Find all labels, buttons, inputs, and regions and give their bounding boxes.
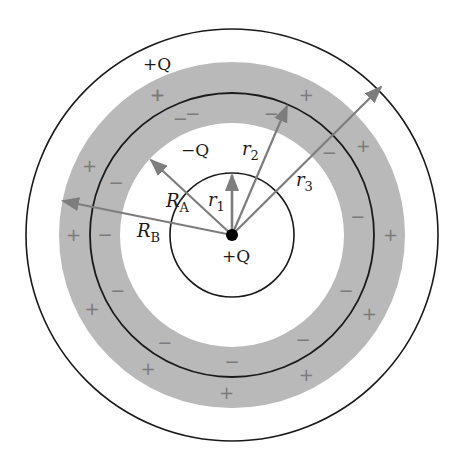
label-r2: r2 — [242, 138, 259, 163]
plus-sign: + — [362, 303, 377, 324]
minus-sign: − — [295, 329, 310, 350]
minus-sign: − — [224, 351, 239, 372]
label-r3: r3 — [296, 169, 313, 194]
point-charge-dot — [226, 229, 238, 241]
plus-sign: + — [85, 298, 100, 319]
plus-sign: + — [299, 364, 314, 385]
plus-sign: + — [299, 84, 314, 105]
label-center-charge: +Q — [222, 246, 250, 266]
minus-sign: − — [110, 280, 125, 301]
plus-sign: + — [383, 224, 398, 245]
arrow-RA — [151, 160, 232, 235]
minus-sign: − — [264, 103, 279, 124]
plus-sign: + — [82, 155, 97, 176]
plus-sign: + — [66, 224, 81, 245]
minus-sign: − — [339, 280, 354, 301]
plus-sign: + — [356, 135, 371, 156]
minus-sign: − — [322, 142, 337, 163]
label-r1: r1 — [208, 189, 225, 214]
plus-sign: + — [140, 358, 155, 379]
minus-sign: − — [97, 224, 112, 245]
minus-sign: − — [173, 108, 188, 129]
plus-sign: + — [150, 84, 165, 105]
plus-sign: + — [219, 382, 234, 403]
minus-sign: − — [108, 172, 123, 193]
minus-sign: − — [157, 332, 172, 353]
label-outer-charge: +Q — [143, 54, 171, 74]
minus-sign: − — [350, 206, 365, 227]
label-inner-surface-charge: −Q — [181, 140, 209, 160]
shell-charge-diagram: ++++++++++++ −−−−−−−−−−−− +Q −Q +Q r1 r2… — [0, 0, 456, 452]
label-RB: RB — [136, 220, 160, 245]
